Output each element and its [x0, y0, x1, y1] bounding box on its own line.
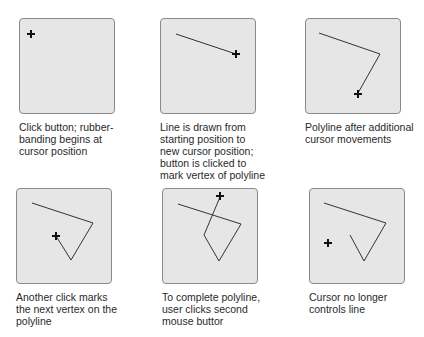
caption-line: mark vertex of polyline — [160, 169, 288, 181]
panel-5 — [162, 188, 258, 284]
caption-line: cursor position — [19, 145, 147, 157]
caption-line: banding begins at — [19, 133, 147, 145]
panel-2 — [160, 18, 256, 114]
caption-line: cursor movements — [305, 133, 424, 145]
caption-3: Polyline after additional cursor movemen… — [305, 121, 424, 145]
caption-line: Cursor no longer — [309, 291, 424, 303]
panel-1 — [19, 18, 115, 114]
caption-6: Cursor no longer controls line — [309, 291, 424, 315]
caption-4: Another click marks the next vertex on t… — [16, 291, 144, 327]
caption-line: Click button; rubber- — [19, 121, 147, 133]
caption-line: Another click marks — [16, 291, 144, 303]
caption-line: controls line — [309, 303, 424, 315]
caption-line: button is clicked to — [160, 157, 288, 169]
caption-line: starting position to — [160, 133, 288, 145]
caption-line: Polyline after additional — [305, 121, 424, 133]
caption-line: Line is drawn from — [160, 121, 288, 133]
caption-line: user clicks second — [162, 303, 290, 315]
caption-5: To complete polyline, user clicks second… — [162, 291, 290, 327]
caption-line: mouse buttor — [162, 315, 290, 327]
caption-line: new cursor position; — [160, 145, 288, 157]
caption-line: polyline — [16, 315, 144, 327]
caption-line: the next vertex on the — [16, 303, 144, 315]
caption-1: Click button; rubber- banding begins at … — [19, 121, 147, 157]
panel-4 — [16, 188, 112, 284]
panel-6 — [309, 188, 405, 284]
caption-line: To complete polyline, — [162, 291, 290, 303]
caption-2: Line is drawn from starting position to … — [160, 121, 288, 181]
panel-3 — [305, 18, 401, 114]
